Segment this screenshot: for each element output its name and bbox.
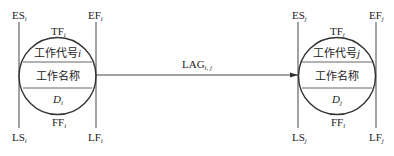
- node-j-name: 工作名称: [315, 69, 359, 83]
- node-i-es-label: ESi: [12, 9, 27, 23]
- node-j: ESj EFj LSj LFj TFj FFi 工作代号j 工作名称 Dj: [292, 9, 384, 145]
- node-i-code: 工作代号i: [34, 47, 81, 60]
- node-j-ef-label: EFj: [369, 9, 384, 23]
- node-j-tf-label: TFj: [330, 25, 345, 39]
- precedence-diagram: ESi EFi LSi LFi TFi FFi 工作代号i 工作名称 Di LA…: [0, 0, 394, 156]
- lag-label: LAGi, j: [182, 58, 212, 72]
- node-j-code: 工作代号j: [313, 47, 360, 60]
- node-j-ff-label: FFi: [331, 116, 345, 130]
- node-i-ef-label: EFi: [88, 9, 103, 23]
- node-i: ESi EFi LSi LFi TFi FFi 工作代号i 工作名称 Di: [12, 9, 103, 145]
- node-i-name: 工作名称: [36, 69, 80, 83]
- node-j-es-label: ESj: [292, 9, 307, 23]
- node-j-ls-label: LSj: [292, 131, 307, 145]
- node-j-duration: Dj: [331, 93, 342, 107]
- node-i-lf-label: LFi: [88, 131, 103, 145]
- lag-link: LAGi, j: [96, 58, 298, 75]
- node-i-duration: Di: [52, 93, 63, 107]
- node-i-ff-label: FFi: [52, 116, 66, 130]
- node-j-lf-label: LFj: [369, 131, 384, 145]
- node-i-ls-label: LSi: [12, 131, 27, 145]
- node-i-tf-label: TFi: [51, 25, 66, 39]
